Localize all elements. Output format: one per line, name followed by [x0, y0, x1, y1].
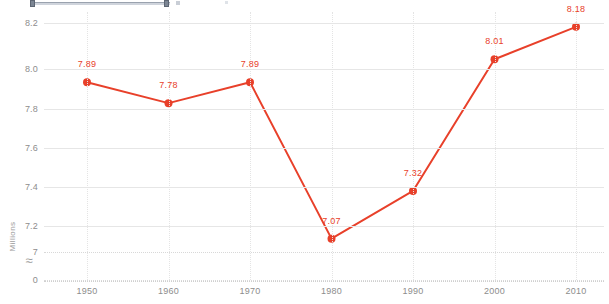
- data-point-label: 7.32: [388, 168, 438, 178]
- range-slider-track[interactable]: [30, 2, 170, 5]
- gridline-vertical: [576, 12, 577, 280]
- data-point-label: 7.89: [225, 59, 275, 69]
- gridline-horizontal: [44, 148, 604, 149]
- data-point-label: 8.18: [551, 4, 601, 14]
- x-axis-tick-label: 1980: [302, 286, 362, 296]
- range-slider-handle-right[interactable]: [164, 0, 169, 7]
- range-slider-end-nub: [176, 1, 180, 5]
- y-axis-tick-label: 7.6: [4, 143, 38, 153]
- gridline-vertical: [332, 12, 333, 280]
- gridline-horizontal: [44, 226, 604, 227]
- toolbar-nub-icon: [225, 1, 228, 4]
- x-axis-tick-label: 2000: [465, 286, 525, 296]
- gridline-horizontal: [44, 187, 604, 188]
- range-slider[interactable]: [30, 0, 170, 7]
- y-axis: 8.28.07.87.67.47.270: [0, 12, 38, 280]
- line-chart: 8.28.07.87.67.47.270 ≈ Millions 7.897.78…: [0, 0, 609, 304]
- gridline-horizontal: [44, 69, 604, 70]
- gridline-vertical: [495, 12, 496, 280]
- y-axis-title: Millions: [8, 207, 17, 267]
- gridline-horizontal: [44, 23, 604, 24]
- data-point-label: 7.07: [307, 216, 357, 226]
- x-axis-tick-label: 1960: [139, 286, 199, 296]
- gridline-horizontal: [44, 252, 604, 253]
- gridline-vertical: [250, 12, 251, 280]
- x-axis-tick-label: 1950: [57, 286, 117, 296]
- x-axis-tick-label: 1990: [383, 286, 443, 296]
- plot-area: 7.897.787.897.077.328.018.18: [44, 12, 604, 280]
- y-axis-tick-label: 7.8: [4, 104, 38, 114]
- x-axis-tick-label: 1970: [220, 286, 280, 296]
- series-line: [44, 12, 604, 280]
- x-axis-line: [44, 281, 604, 282]
- range-slider-handle-left[interactable]: [30, 0, 35, 7]
- y-axis-tick-label: 0: [4, 275, 38, 285]
- data-point-label: 7.89: [62, 59, 112, 69]
- gridline-vertical: [169, 12, 170, 280]
- x-axis-tick-label: 2010: [546, 286, 606, 296]
- y-axis-tick-label: 8.0: [4, 64, 38, 74]
- y-axis-tick-label: 8.2: [4, 18, 38, 28]
- data-point-label: 7.78: [144, 80, 194, 90]
- y-axis-break-icon: ≈: [22, 252, 36, 270]
- gridline-vertical: [87, 12, 88, 280]
- data-point-label: 8.01: [470, 36, 520, 46]
- x-axis: 1950196019701980199020002010: [44, 286, 604, 300]
- gridline-horizontal: [44, 109, 604, 110]
- y-axis-tick-label: 7.4: [4, 182, 38, 192]
- gridline-vertical: [413, 12, 414, 280]
